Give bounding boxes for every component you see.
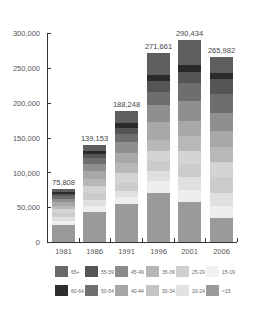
legend-label: 15-19 bbox=[222, 269, 235, 275]
bar-segment bbox=[83, 193, 106, 200]
bar-segment bbox=[210, 57, 233, 73]
bar-segment bbox=[210, 162, 233, 177]
y-tick-label: 0 bbox=[0, 238, 40, 247]
x-tick-label: 1986 bbox=[79, 247, 111, 256]
bar-segment bbox=[115, 204, 138, 242]
bar-segment bbox=[83, 171, 106, 179]
x-tick-mark bbox=[110, 238, 111, 242]
legend-swatch bbox=[146, 285, 159, 296]
bar-total-label: 271,661 bbox=[139, 42, 179, 51]
legend-label: <15 bbox=[222, 288, 230, 294]
bar-segment bbox=[210, 147, 233, 162]
legend-label: 40-44 bbox=[131, 288, 144, 294]
bar-segment bbox=[115, 183, 138, 191]
y-tick-mark bbox=[47, 172, 51, 173]
legend-item: 15-19 bbox=[206, 266, 235, 277]
legend-swatch bbox=[146, 266, 159, 277]
bar-1986 bbox=[83, 145, 106, 242]
legend-label: 30-34 bbox=[162, 288, 175, 294]
legend-item: 20-24 bbox=[176, 285, 205, 296]
legend-swatch bbox=[115, 266, 128, 277]
bar-1991 bbox=[115, 111, 138, 242]
bar-segment bbox=[178, 83, 201, 101]
bar-total-label: 139,153 bbox=[75, 134, 115, 143]
x-tick-mark bbox=[174, 238, 175, 242]
legend-swatch bbox=[206, 266, 219, 277]
bar-segment bbox=[147, 81, 170, 91]
legend-label: 25-29 bbox=[192, 269, 205, 275]
bar-2006 bbox=[210, 57, 233, 242]
legend-swatch bbox=[85, 266, 98, 277]
bar-segment bbox=[147, 53, 170, 75]
bar-segment bbox=[147, 92, 170, 106]
y-tick-label: 300,000 bbox=[0, 29, 40, 38]
bar-2001 bbox=[178, 40, 201, 242]
legend-item: 60-64 bbox=[55, 285, 84, 296]
y-tick-mark bbox=[47, 33, 51, 34]
legend-label: 65+ bbox=[71, 269, 79, 275]
bar-segment bbox=[147, 181, 170, 194]
bar-total-label: 290,434 bbox=[170, 29, 210, 38]
bar-segment bbox=[147, 151, 170, 161]
x-tick-label: 2001 bbox=[174, 247, 206, 256]
y-tick-mark bbox=[47, 207, 51, 208]
bar-segment bbox=[147, 171, 170, 181]
bar-segment bbox=[147, 140, 170, 151]
bar-segment bbox=[178, 190, 201, 202]
x-tick-mark bbox=[142, 238, 143, 242]
legend-item: 40-44 bbox=[115, 285, 144, 296]
legend-item: 55-59 bbox=[85, 266, 114, 277]
x-tick-label: 1996 bbox=[143, 247, 175, 256]
x-tick-label: 1981 bbox=[48, 247, 80, 256]
legend-swatch bbox=[85, 285, 98, 296]
bar-total-label: 75,808 bbox=[44, 178, 84, 187]
bar-segment bbox=[115, 163, 138, 173]
bar-segment bbox=[115, 134, 138, 142]
y-tick-label: 100,000 bbox=[0, 169, 40, 178]
legend-label: 50-54 bbox=[101, 288, 114, 294]
legend-swatch bbox=[115, 285, 128, 296]
bar-segment bbox=[210, 94, 233, 112]
y-tick-mark bbox=[47, 103, 51, 104]
bar-segment bbox=[178, 202, 201, 242]
legend-swatch bbox=[206, 285, 219, 296]
legend-label: 55-59 bbox=[101, 269, 114, 275]
bar-segment bbox=[83, 186, 106, 193]
bar-segment bbox=[178, 101, 201, 121]
x-axis bbox=[47, 242, 237, 243]
bar-segment bbox=[147, 105, 170, 121]
bar-segment bbox=[210, 131, 233, 146]
bar-1981 bbox=[52, 189, 75, 242]
bar-segment bbox=[210, 206, 233, 218]
legend-item: 65+ bbox=[55, 266, 79, 277]
legend-item: 30-34 bbox=[146, 285, 175, 296]
bar-segment bbox=[178, 72, 201, 83]
x-tick-mark bbox=[79, 238, 80, 242]
y-tick-label: 200,000 bbox=[0, 99, 40, 108]
bar-segment bbox=[115, 142, 138, 152]
legend-item: <15 bbox=[206, 285, 230, 296]
legend-item: 50-54 bbox=[85, 285, 114, 296]
bar-segment bbox=[52, 225, 75, 242]
x-tick-mark bbox=[237, 238, 238, 242]
bar-segment bbox=[115, 153, 138, 163]
bar-1996 bbox=[147, 53, 170, 242]
bar-segment bbox=[178, 177, 201, 190]
bar-total-label: 188,248 bbox=[107, 100, 147, 109]
bar-segment bbox=[210, 218, 233, 242]
bar-segment bbox=[147, 193, 170, 242]
bar-total-label: 265,982 bbox=[202, 46, 242, 55]
legend-label: 20-24 bbox=[192, 288, 205, 294]
bar-segment bbox=[178, 65, 201, 72]
bar-segment bbox=[210, 177, 233, 192]
bar-segment bbox=[178, 136, 201, 151]
x-tick-label: 1991 bbox=[111, 247, 143, 256]
y-tick-mark bbox=[47, 138, 51, 139]
bar-segment bbox=[178, 151, 201, 164]
x-tick-mark bbox=[205, 238, 206, 242]
bar-segment bbox=[83, 212, 106, 242]
x-tick-label: 2006 bbox=[206, 247, 238, 256]
legend-item: 45-49 bbox=[115, 266, 144, 277]
legend-item: 35-39 bbox=[146, 266, 175, 277]
legend-item: 25-29 bbox=[176, 266, 205, 277]
